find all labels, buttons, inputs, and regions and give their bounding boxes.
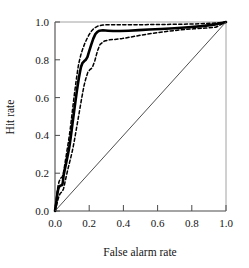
y-tick-label-5: 1.0 (35, 16, 49, 28)
x-tick-label-5: 1.0 (219, 217, 233, 229)
y-axis-title: Hit rate (4, 100, 16, 135)
x-tick-label-3: 0.6 (151, 217, 165, 229)
y-tick-label-2: 0.4 (35, 129, 49, 141)
y-tick-labels: 0.0 0.2 0.4 0.6 0.8 1.0 (35, 16, 49, 217)
roc-chart-figure: 0.0 0.2 0.4 0.6 0.8 1.0 0.0 0.2 0.4 0.6 … (0, 0, 249, 268)
x-axis-ticks (55, 205, 226, 211)
data-series-layer (55, 22, 226, 211)
x-tick-label-4: 0.8 (185, 217, 199, 229)
y-tick-label-1: 0.2 (35, 167, 49, 179)
x-tick-label-2: 0.4 (117, 217, 131, 229)
roc-plot-svg: 0.0 0.2 0.4 0.6 0.8 1.0 0.0 0.2 0.4 0.6 … (0, 0, 249, 268)
x-tick-label-0: 0.0 (48, 217, 62, 229)
y-tick-label-4: 0.8 (35, 54, 49, 66)
x-tick-label-1: 0.2 (82, 217, 96, 229)
y-tick-label-3: 0.6 (35, 92, 49, 104)
x-tick-labels: 0.0 0.2 0.4 0.6 0.8 1.0 (48, 217, 233, 229)
y-tick-label-0: 0.0 (35, 205, 49, 217)
series-line-3 (55, 22, 226, 211)
x-axis-title: False alarm rate (103, 246, 176, 258)
